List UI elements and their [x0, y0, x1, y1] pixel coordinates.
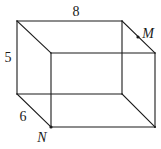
depth-label: 6	[20, 109, 27, 124]
edge-depth-top-left	[17, 21, 51, 53]
length-label: 8	[73, 4, 80, 19]
box-diagram: 8 5 6 M N	[0, 0, 161, 149]
point-n-dot	[49, 125, 52, 128]
point-m-label: M	[141, 26, 155, 41]
point-n-label: N	[36, 130, 47, 145]
height-label: 5	[5, 50, 12, 65]
edge-depth-bottom-right	[122, 94, 155, 127]
back-face	[17, 21, 122, 94]
corner-dot-front-bottom-right	[154, 126, 156, 128]
depth-edges	[17, 21, 155, 127]
front-face	[51, 53, 155, 127]
point-m-dot	[136, 35, 139, 38]
